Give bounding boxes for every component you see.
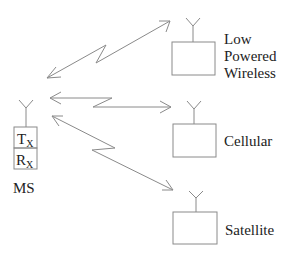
- network-box: [172, 42, 215, 75]
- ms-antenna-icon: [19, 100, 33, 127]
- network-low-powered-wireless: [172, 18, 215, 75]
- network-box: [173, 124, 216, 157]
- network-label-line: Wireless: [224, 65, 276, 81]
- ms-tx-label: TX: [17, 131, 34, 149]
- network-box: [173, 212, 217, 244]
- diagram-canvas: TX RX MS Low Powered Wireless Cellular S…: [0, 0, 292, 258]
- network-label-cellular: Cellular: [224, 133, 272, 149]
- ms-rx-label: RX: [16, 152, 34, 170]
- network-label-line: Powered: [224, 48, 277, 64]
- ms-label: MS: [13, 180, 35, 196]
- network-cellular: [173, 101, 216, 157]
- link-ms-cellular: [50, 92, 171, 113]
- link-ms-low-powered-wireless: [47, 21, 170, 78]
- antenna-icon: [186, 18, 200, 42]
- network-label-satellite: Satellite: [225, 222, 274, 238]
- link-ms-satellite: [52, 116, 173, 190]
- antenna-icon: [189, 191, 203, 212]
- network-satellite: [173, 191, 217, 244]
- network-label-line: Low: [224, 31, 252, 47]
- antenna-icon: [187, 101, 201, 124]
